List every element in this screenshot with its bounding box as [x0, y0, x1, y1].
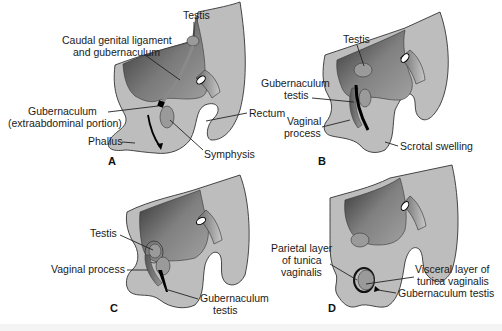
panel-a-symphysis-shape	[160, 106, 174, 128]
label-b-scrotal: Scrotal swelling	[400, 140, 473, 152]
label-b-vag-1: Vaginal	[287, 115, 321, 127]
panel-c-testis-shape	[149, 244, 161, 258]
panel-c-symphysis-shape	[156, 257, 170, 275]
panel-a: Testis Caudal genital ligament and guber…	[8, 2, 285, 167]
label-d-parietal-3: vaginalis	[281, 266, 322, 278]
label-d-gubernaculum: Gubernaculum testis	[398, 287, 494, 299]
label-b-gub-2: testis	[284, 89, 309, 101]
label-a-rectum: Rectum	[249, 107, 285, 119]
panel-b-testis-shape	[354, 63, 372, 77]
panel-c-letter: C	[110, 302, 118, 314]
panel-d-symphysis-shape	[351, 233, 369, 247]
label-a-gub-2: (extraabdominal portion)	[8, 117, 122, 129]
panel-d-testis-shape	[358, 270, 374, 290]
panel-c: Testis Vaginal process Gubernaculum test…	[51, 175, 269, 316]
panel-b-symphysis-shape	[359, 89, 371, 107]
label-a-caudal-1: Caudal genital ligament	[62, 34, 172, 46]
figure-canvas: Testis Caudal genital ligament and guber…	[0, 0, 502, 331]
label-d-parietal-1: Parietal layer	[271, 242, 333, 254]
label-a-phallus: Phallus	[88, 135, 122, 147]
label-a-gub-1: Gubernaculum	[28, 105, 97, 117]
label-a-caudal-2: and gubernaculum	[73, 46, 160, 58]
label-b-gub-1: Gubernaculum	[261, 77, 330, 89]
label-d-parietal-2: of tunica	[282, 254, 322, 266]
caption-strip	[0, 324, 502, 331]
label-d-visceral-1: Visceral layer of	[415, 263, 490, 275]
label-a-testis: Testis	[183, 9, 210, 21]
panel-a-testis-shape	[187, 36, 199, 46]
panel-a-letter: A	[108, 155, 116, 167]
label-b-testis: Testis	[343, 33, 370, 45]
panel-b-letter: B	[318, 155, 326, 167]
label-c-gub-1: Gubernaculum	[200, 292, 269, 304]
panel-d: Parietal layer of tunica vaginalis Visce…	[271, 165, 494, 314]
label-c-vag: Vaginal process	[51, 263, 125, 275]
label-d-visceral-2: tunica vaginalis	[417, 275, 489, 287]
label-a-symphysis: Symphysis	[204, 148, 255, 160]
label-b-vag-2: process	[284, 127, 321, 139]
label-c-testis: Testis	[90, 227, 117, 239]
label-c-gub-2: testis	[213, 304, 238, 316]
panel-d-letter: D	[328, 302, 336, 314]
panel-b: Testis Gubernaculum testis Vaginal proce…	[261, 12, 473, 167]
